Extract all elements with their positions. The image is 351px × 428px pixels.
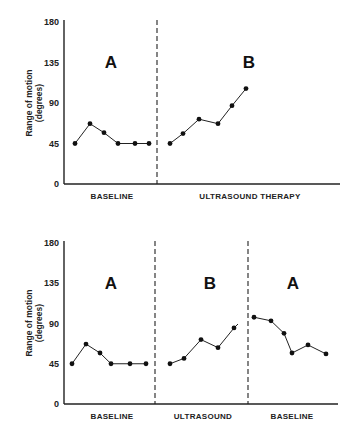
data-point [168,361,173,366]
data-point [70,361,75,366]
phase-label: BASELINE [91,412,134,421]
data-point [98,351,103,356]
y-tick-label: 135 [44,278,59,288]
data-point [116,141,121,146]
data-point [324,352,329,357]
phase-a-series [73,121,152,146]
data-point [197,117,202,122]
data-point [269,318,274,323]
data-point [306,343,311,348]
data-point [128,361,133,366]
data-point [181,131,186,136]
series-line [72,344,146,364]
series-line [75,124,149,144]
data-point [199,337,204,342]
chart-panel-1: 04590135180Range of motion(degrees)ABASE… [24,17,340,201]
phase-label: BASELINE [271,412,314,421]
data-point [252,315,257,320]
phase-letter: B [243,53,255,72]
phase-letter: A [105,53,117,72]
phase-label: ULTRASOUND [174,412,232,421]
data-point [102,130,107,135]
chart-canvas: 04590135180Range of motion(degrees)ABASE… [0,0,351,428]
phase-b-series [168,86,249,146]
y-tick-label: 180 [44,17,59,27]
data-point [232,326,237,331]
phase-b-series [168,324,238,366]
phase-a-series [252,315,329,356]
y-tick-label: 135 [44,58,59,68]
phase-label: BASELINE [91,192,134,201]
data-point [109,361,114,366]
y-axis-label: Range of motion(degrees) [24,69,44,136]
phase-letter: A [287,274,299,293]
y-tick-label: 90 [49,98,59,108]
y-tick-label: 0 [54,399,59,409]
series-line [170,324,238,364]
series-line [254,317,326,354]
data-point [244,86,249,91]
data-point [147,141,152,146]
phase-label: ULTRASOUND THERAPY [199,192,301,201]
y-tick-label: 45 [49,359,59,369]
data-point [168,141,173,146]
data-point [73,141,78,146]
data-point [84,342,89,347]
figure: 04590135180Range of motion(degrees)ABASE… [0,0,351,428]
data-point [230,103,235,108]
data-point [182,356,187,361]
y-tick-label: 45 [49,139,59,149]
y-tick-label: 0 [54,179,59,189]
data-point [290,351,295,356]
data-point [144,361,149,366]
phase-letter: A [105,274,117,293]
y-tick-label: 90 [49,319,59,329]
data-point [216,121,221,126]
data-point [216,345,221,350]
chart-panel-2: 04590135180Range of motion(degrees)ABASE… [24,238,338,421]
y-tick-label: 180 [44,238,59,248]
data-point [88,121,93,126]
phase-letter: B [204,274,216,293]
data-point [282,331,287,336]
data-point [133,141,138,146]
y-axis-label: Range of motion(degrees) [24,289,44,356]
phase-a-series [70,342,149,366]
